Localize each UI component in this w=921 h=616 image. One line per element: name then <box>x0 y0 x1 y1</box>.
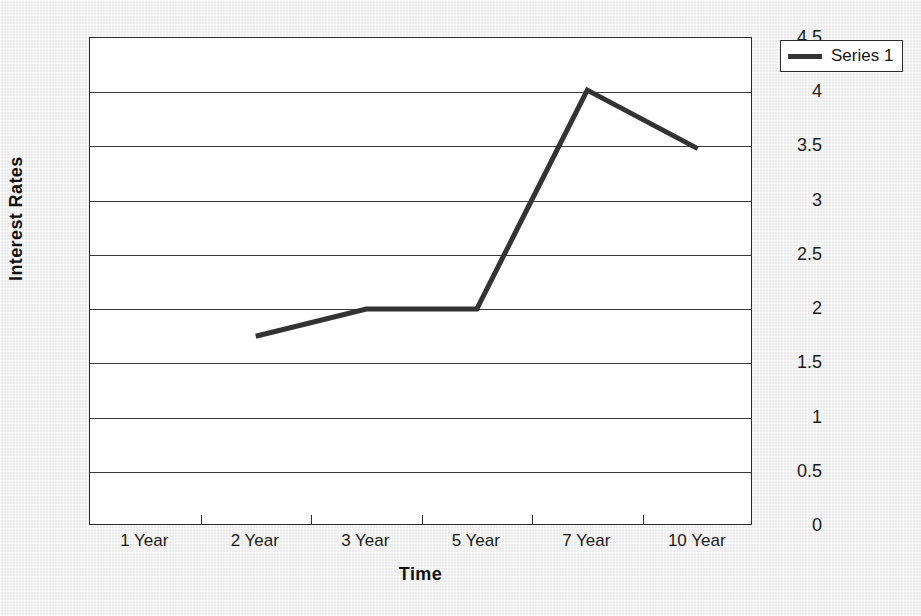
x-axis-title: Time <box>89 564 752 585</box>
series-line-series-1 <box>90 38 753 526</box>
x-axis-tick-label: 3 Year <box>341 531 389 551</box>
plot-area <box>89 37 752 525</box>
y-axis-tick-label: 3.5 <box>762 135 822 156</box>
line-chart-figure: Interest Rates 00.511.522.533.544.5 1 Ye… <box>0 0 921 616</box>
legend-entry-label: Series 1 <box>831 46 893 66</box>
y-axis-tick-label: 1.5 <box>762 352 822 373</box>
chart-legend: Series 1 <box>780 40 903 72</box>
y-axis-tick-label: 0.5 <box>762 460 822 481</box>
y-axis-tick-label: 3 <box>762 189 822 210</box>
y-axis-tick-label: 2 <box>762 298 822 319</box>
legend-line-swatch <box>788 54 822 59</box>
y-axis-tick-label: 2.5 <box>762 243 822 264</box>
x-axis-tick-label: 7 Year <box>562 531 610 551</box>
x-axis-tick-label: 5 Year <box>452 531 500 551</box>
y-axis-tick-label: 1 <box>762 406 822 427</box>
x-axis-tick-label: 2 Year <box>231 531 279 551</box>
series-1-polyline <box>256 90 698 336</box>
y-axis-tick-label: 0 <box>762 515 822 536</box>
y-axis-tick-label: 4 <box>762 81 822 102</box>
x-axis-tick-label: 1 Year <box>120 531 168 551</box>
x-axis-tick-label: 10 Year <box>668 531 726 551</box>
y-axis-title: Interest Rates <box>6 156 27 281</box>
